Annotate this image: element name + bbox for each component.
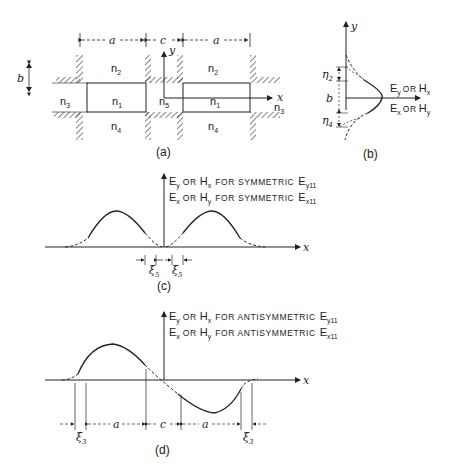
caption-b: (b) xyxy=(363,147,378,161)
caption-c: (c) xyxy=(157,279,171,293)
d-dim-a-right: a xyxy=(202,418,209,431)
d-dim-c: c xyxy=(160,418,166,431)
dim-b: b xyxy=(17,72,24,85)
xi3-right: ξ3 xyxy=(243,431,254,446)
c-axis-label-x: x xyxy=(303,241,310,254)
xi3-left: ξ3 xyxy=(76,431,87,446)
panel-b: y η2 b η4 EyORHx ExORHy (b) xyxy=(322,20,431,161)
c-legend-line2: ExORHyFOR SYMMETRICEx11 xyxy=(169,191,317,206)
svg-text:n1: n1 xyxy=(112,95,122,109)
svg-text:n1: n1 xyxy=(210,95,220,109)
svg-text:n2: n2 xyxy=(111,62,121,76)
caption-d: (d) xyxy=(155,443,170,457)
dim-a-left: a xyxy=(109,34,116,47)
xi5-left: ξ5 xyxy=(149,264,160,279)
eta2-label: η2 xyxy=(322,68,334,83)
b-field-label-upper: EyORHx xyxy=(390,82,431,97)
dim-a-right: a xyxy=(213,34,220,47)
svg-text:n4: n4 xyxy=(111,120,121,134)
d-legend-line1: EyORHxFOR ANTISYMMETRICEy11 xyxy=(169,310,338,325)
svg-text:n3: n3 xyxy=(60,95,70,109)
d-dim-a-left: a xyxy=(113,418,120,431)
panel-c: x ξ5 ξ5 (c) EyORHxFOR SYMMETRICEy11 ExOR… xyxy=(45,174,317,293)
d-legend-line2: ExORHyFOR ANTISYMMETRICEx11 xyxy=(169,326,338,341)
figure-canvas: a c a xyxy=(0,0,453,470)
b-dim-label: b xyxy=(326,92,333,105)
b-field-label-lower: ExORHy xyxy=(390,102,431,117)
svg-text:n4: n4 xyxy=(208,120,218,134)
svg-text:n5: n5 xyxy=(159,95,169,109)
b-axis-label-y: y xyxy=(350,20,358,33)
panel-d: x a c a ξ3 ξ3 (d) xyxy=(45,310,338,457)
d-axis-label-x: x xyxy=(303,374,310,387)
panel-a: a c a xyxy=(17,33,284,159)
c-legend-line1: EyORHxFOR SYMMETRICEy11 xyxy=(169,175,317,190)
xi5-right: ξ5 xyxy=(172,264,183,279)
caption-a: (a) xyxy=(156,145,171,159)
svg-text:n2: n2 xyxy=(208,62,218,76)
eta4-label: η4 xyxy=(322,114,333,129)
dim-c: c xyxy=(160,34,166,47)
axis-label-y: y xyxy=(168,44,176,57)
